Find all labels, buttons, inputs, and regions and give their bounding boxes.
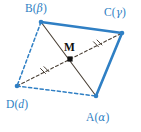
vertex-label-b-paren-close: ) (43, 2, 47, 14)
vertex-label-b-base: B (25, 2, 33, 14)
vertex-label-a: A(α) (86, 112, 109, 124)
midpoint-marker (67, 56, 72, 61)
vertex-dot-c (120, 31, 125, 36)
figure-canvas (0, 0, 141, 132)
vertex-label-c-paren-close: ) (122, 6, 126, 18)
tick-marks-dm (41, 67, 50, 74)
vertex-label-d-paren-close: ) (24, 98, 28, 110)
vertex-label-c: C(γ) (104, 7, 126, 19)
edge-b-d (17, 22, 41, 86)
edge-d-a (17, 86, 96, 96)
vertex-label-c-base: C (104, 6, 112, 18)
vertex-dot-b (39, 20, 44, 25)
midpoint-label-m: M (64, 42, 75, 54)
geometry-figure: B(β) C(γ) A(α) D(d) M (0, 0, 141, 132)
edge-b-c (41, 22, 122, 33)
vertex-label-b: B(β) (25, 3, 47, 15)
vertex-label-d: D(d) (6, 99, 28, 111)
vertex-label-a-greek: α (98, 111, 105, 123)
vertex-dot-d (15, 84, 20, 89)
vertex-label-a-paren-close: ) (106, 111, 110, 123)
tick-marks-mc (94, 40, 103, 47)
vertex-dot-a (94, 94, 99, 99)
